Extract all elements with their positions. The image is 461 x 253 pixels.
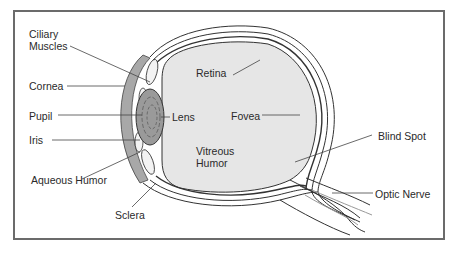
label-vitreous-humor-2: Humor: [196, 157, 228, 169]
label-optic-nerve: Optic Nerve: [375, 188, 430, 200]
label-iris: Iris: [29, 134, 43, 146]
label-aqueous-humor: Aqueous Humor: [31, 174, 107, 186]
label-ciliary-muscles-1: Ciliary: [29, 28, 58, 40]
label-ciliary-muscles-2: Muscles: [29, 40, 68, 52]
label-cornea: Cornea: [29, 80, 63, 92]
label-fovea: Fovea: [231, 110, 260, 122]
eye-diagram: [0, 0, 461, 253]
label-blind-spot: Blind Spot: [378, 130, 426, 142]
label-retina: Retina: [196, 67, 226, 79]
label-lens: Lens: [172, 111, 195, 123]
label-sclera: Sclera: [115, 209, 145, 221]
label-pupil: Pupil: [29, 110, 52, 122]
label-vitreous-humor-1: Vitreous: [196, 145, 234, 157]
